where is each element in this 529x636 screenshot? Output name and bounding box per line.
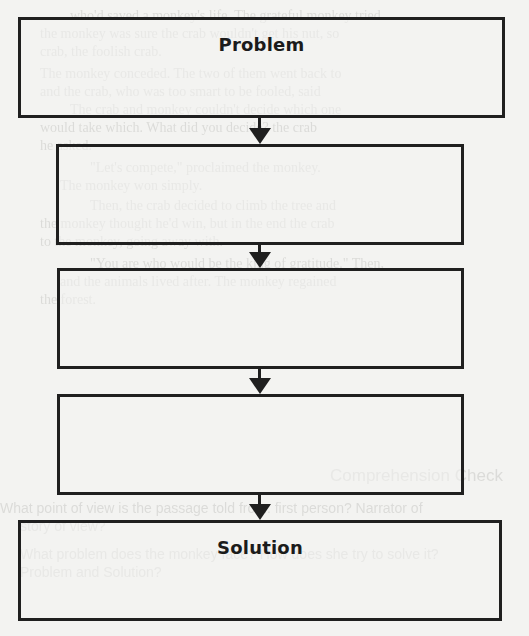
step-box-3 — [57, 394, 464, 495]
arrow-down-icon — [249, 244, 271, 269]
ghost-line: What point of view is the passage told f… — [0, 500, 423, 516]
solution-box: Solution — [18, 520, 502, 621]
step-box-2 — [57, 268, 464, 369]
problem-box: Problem — [18, 17, 505, 118]
step-box-1 — [56, 144, 464, 245]
arrow-down-icon — [249, 368, 271, 395]
solution-label: Solution — [21, 537, 499, 558]
arrow-down-icon — [249, 117, 271, 145]
arrow-down-icon — [249, 494, 271, 521]
problem-label: Problem — [21, 34, 502, 55]
ghost-line: would take which. What did you decide? t… — [40, 120, 317, 136]
